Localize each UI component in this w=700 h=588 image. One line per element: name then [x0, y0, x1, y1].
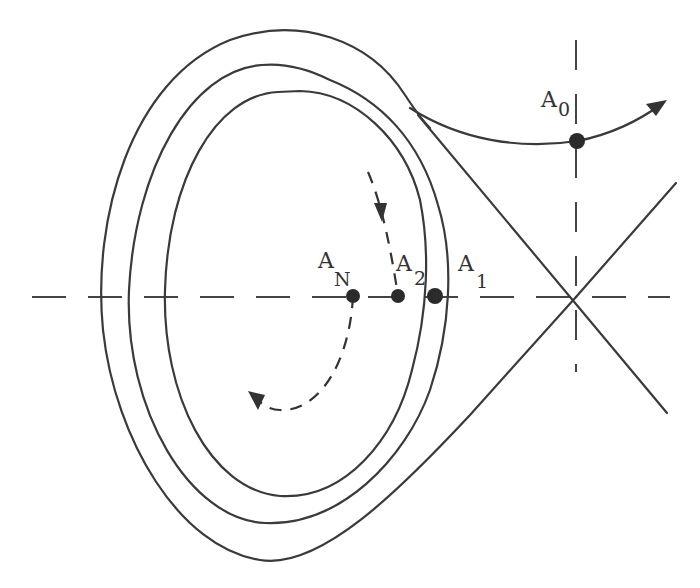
point-a0	[569, 133, 585, 149]
label-a1-sub: 1	[476, 270, 488, 292]
label-an: A	[317, 248, 335, 273]
point-an	[346, 289, 360, 303]
point-a1	[427, 288, 443, 304]
label-a2: A	[395, 251, 413, 276]
point-a2	[391, 289, 405, 303]
arrow-icon-return	[248, 391, 265, 410]
unstable-manifold-upper	[576, 183, 676, 297]
spiral-trajectory-lower	[258, 296, 353, 410]
spiral-trajectory-upper	[368, 172, 398, 296]
label-a2-sub: 2	[414, 267, 426, 289]
label-a1: A	[457, 251, 475, 276]
stable-manifold-line	[418, 115, 667, 413]
arrow-icon-down	[374, 203, 387, 222]
label-an-sub: N	[334, 268, 351, 290]
label-a0-sub: 0	[558, 98, 570, 120]
label-a0: A	[540, 87, 558, 112]
orbit-inner	[165, 91, 426, 496]
escaping-trajectory	[410, 105, 660, 144]
phase-diagram: A 0 A 1 A 2 A N	[0, 0, 700, 588]
